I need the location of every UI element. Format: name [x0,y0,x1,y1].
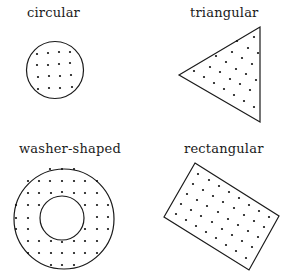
rectangular-shape [164,163,279,270]
washer-shape [14,168,114,269]
triangular-shape [179,27,260,122]
circular-shape [27,42,84,99]
shapes-diagram [0,0,288,280]
